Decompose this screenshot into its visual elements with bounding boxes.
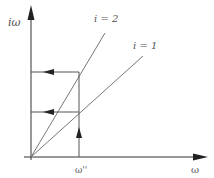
left-arrow-icon-upper bbox=[43, 69, 54, 75]
x-axis-label: ω bbox=[191, 164, 199, 175]
up-arrow-icon bbox=[76, 127, 82, 138]
x-axis-arrow-icon bbox=[193, 154, 208, 161]
y-axis-label: iω bbox=[8, 16, 21, 29]
line-i-1-label: i = 1 bbox=[133, 40, 157, 51]
line-i-2 bbox=[31, 33, 105, 157]
diagram-canvas: iω ω ω'' i = 2 i = 1 bbox=[0, 0, 214, 178]
y-axis-arrow-icon bbox=[28, 5, 35, 20]
omega-double-prime-label: ω'' bbox=[75, 165, 87, 175]
line-i-2-label: i = 2 bbox=[94, 13, 118, 24]
left-arrow-icon-lower bbox=[43, 109, 54, 115]
